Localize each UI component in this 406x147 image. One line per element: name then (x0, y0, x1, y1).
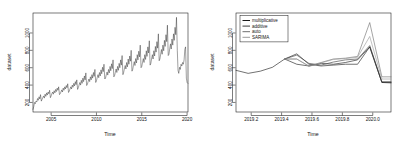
right-y-tick-label: 600 (228, 63, 233, 71)
legend: multiplicativeadditiveautoSARIMA (240, 16, 288, 42)
right-y-tick-label: 1000 (228, 27, 233, 38)
right-x-axis-title: Time (307, 131, 318, 137)
left-y-tick-label: 800 (25, 46, 30, 54)
right-x-tick-label: 2020.0 (366, 117, 380, 122)
right-x-tick-label: 2019.6 (305, 117, 319, 122)
left-x-tick-label: 2015 (137, 117, 148, 122)
legend-label: SARIMA (252, 35, 269, 40)
legend-label: auto (252, 29, 261, 34)
right-plot-svg: 2004006008001000 2019.22019.42019.62019.… (203, 0, 406, 147)
left-x-tick-label: 2010 (91, 117, 102, 122)
left-y-tick-label: 1000 (25, 27, 30, 38)
left-y-tick-label: 200 (25, 98, 30, 106)
legend-label: multiplicative (252, 18, 278, 23)
right-x-tick-label: 2019.2 (244, 117, 258, 122)
right-x-tick-label: 2019.8 (335, 117, 349, 122)
left-x-tick-label: 2005 (46, 117, 57, 122)
left-x-axis-title: Time (104, 131, 115, 137)
left-plot-svg: 2004006008001000 2005201020152020 Time d… (0, 0, 203, 147)
left-x-tick-label: 2020 (182, 117, 193, 122)
panel-right-forecast: 2004006008001000 2019.22019.42019.62019.… (203, 0, 406, 147)
left-y-tick-label: 600 (25, 63, 30, 71)
left-y-tick-label: 400 (25, 81, 30, 89)
right-y-axis-title: dataset (209, 53, 215, 71)
right-plot-background (203, 0, 406, 147)
right-y-tick-label: 200 (228, 98, 233, 106)
right-y-tick-label: 800 (228, 46, 233, 54)
right-y-tick-label: 400 (228, 81, 233, 89)
panel-left-timeseries: 2004006008001000 2005201020152020 Time d… (0, 0, 203, 147)
left-y-axis-title: dataset (6, 53, 12, 71)
legend-label: additive (252, 24, 268, 29)
right-x-tick-label: 2019.4 (275, 117, 289, 122)
figure-container: 2004006008001000 2005201020152020 Time d… (0, 0, 406, 147)
